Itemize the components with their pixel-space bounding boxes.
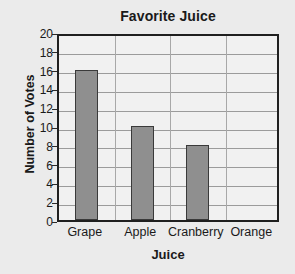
x-tick-label: Grape: [57, 225, 113, 240]
chart-title: Favorite Juice: [57, 8, 279, 24]
bar-chart-figure: Favorite Juice Number of Votes 024681012…: [0, 0, 295, 274]
y-tick-mark: [52, 90, 57, 91]
x-tick-label: Apple: [113, 225, 169, 240]
x-axis-title: Juice: [57, 247, 279, 262]
y-tick-mark: [52, 146, 57, 147]
bars-layer: [59, 36, 277, 220]
y-tick-label: 8: [31, 141, 53, 153]
bar-cranberry: [186, 145, 209, 220]
y-tick-mark: [52, 165, 57, 166]
y-tick-label: 2: [31, 197, 53, 209]
y-tick-label: 14: [31, 84, 53, 96]
x-tick-label: Orange: [224, 225, 280, 240]
x-tick-label: Cranberry: [168, 225, 224, 240]
x-axis-tick-labels: GrapeAppleCranberryOrange: [57, 225, 279, 243]
y-tick-mark: [52, 128, 57, 129]
y-tick-label: 4: [31, 178, 53, 190]
y-tick-mark: [52, 52, 57, 53]
y-tick-label: 0: [31, 216, 53, 228]
y-tick-label: 10: [31, 122, 53, 134]
y-tick-label: 20: [31, 28, 53, 40]
y-tick-mark: [52, 222, 57, 223]
y-tick-mark: [52, 203, 57, 204]
plot-area: [57, 34, 279, 222]
y-tick-label: 18: [31, 47, 53, 59]
y-tick-label: 16: [31, 66, 53, 78]
y-axis-tick-labels: 02468101214161820: [29, 34, 53, 222]
y-tick-mark: [52, 71, 57, 72]
y-tick-label: 12: [31, 103, 53, 115]
y-tick-mark: [52, 34, 57, 35]
y-tick-mark: [52, 184, 57, 185]
y-tick-mark: [52, 109, 57, 110]
bar-apple: [131, 126, 154, 220]
y-tick-label: 6: [31, 160, 53, 172]
bar-grape: [75, 70, 98, 220]
